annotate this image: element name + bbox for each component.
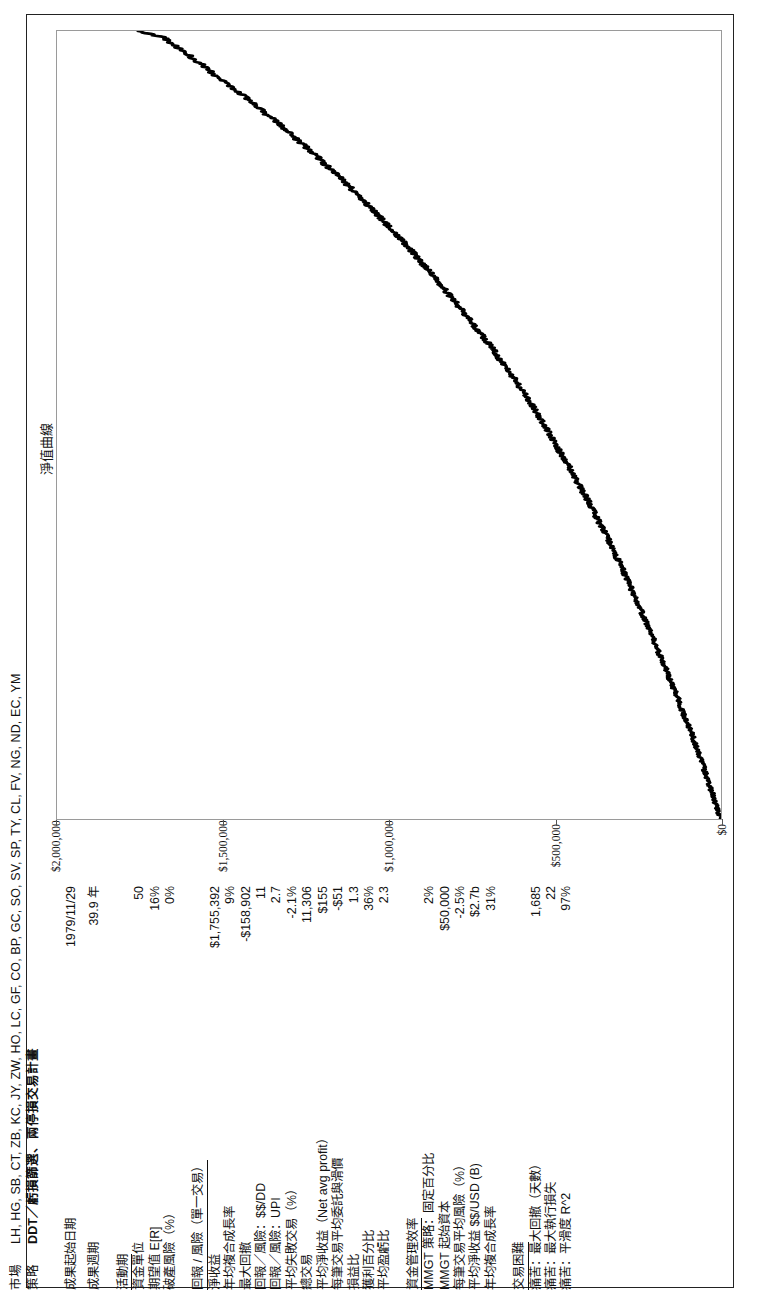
- stat-row-avg-net-profit: 平均淨收益（Net avg profit） $155: [316, 886, 331, 1290]
- y-axis-tick-mark: [556, 819, 557, 826]
- stat-row-avg-cost: 每筆交易平均委託與滑價 -$51: [331, 886, 346, 1290]
- stat-row-period: 成果週期 39.9 年: [87, 886, 102, 1290]
- stat-row-net-profit: 淨收益 $1,755,392: [208, 886, 223, 1290]
- y-axis-tick-mark: [722, 819, 723, 826]
- stat-row-avg-win-loss: 平均盈虧比 2.3: [377, 886, 392, 1290]
- header-row-market: 市場 LH, HG, SB, CT, ZB, KC, JY, ZW, HO, L…: [8, 140, 25, 1290]
- stat-label: 年均複合成長率: [484, 1206, 499, 1290]
- stat-row-total-trades: 總交易 11,306: [300, 886, 315, 1290]
- strategy-label: 策略: [25, 1244, 42, 1290]
- stat-value: 11: [254, 886, 269, 907]
- stat-value: 2%: [422, 886, 437, 912]
- stat-section-reward-risk: 回報 / 風險（單一交易）: [191, 886, 207, 1290]
- stat-value: $50,000: [438, 886, 453, 939]
- stat-row-avg-losing-trade: 平均失敗交易（%） -2.1%: [285, 886, 300, 1290]
- stat-row-expectancy: 期望值 E[R] 16%: [148, 886, 163, 1290]
- stat-row-mmgt-start-capital: MMGT 起始資本 $50,000: [438, 886, 453, 1290]
- stat-label: MMGT 策略：固定百分比: [422, 1153, 437, 1290]
- stat-label: 淨收益: [208, 1254, 223, 1290]
- stat-row-mmgt-cagr: 年均複合成長率 31%: [484, 886, 499, 1290]
- stat-section-label: 活動期: [116, 1254, 132, 1290]
- stat-row-reward-risk-dd: 回報／風險：$$/DD 11: [254, 886, 269, 1290]
- statistics-panel: 成果起始日期 1979/11/29 成果週期 39.9 年 活動期 資金單位 5…: [64, 886, 575, 1290]
- rotated-report-shell: 市場 LH, HG, SB, CT, ZB, KC, JY, ZW, HO, L…: [0, 0, 764, 1304]
- stat-row-pain-max-dd-days: 痛苦：最大回撤（天數） 1,685: [529, 886, 544, 1290]
- stat-value: $2.7b: [468, 886, 483, 925]
- stat-label: 獲利百分比: [362, 1230, 377, 1290]
- stat-value: 1,685: [529, 886, 544, 925]
- stat-section-difficulty: 交易困難: [512, 886, 528, 1290]
- stat-value: 1.3: [347, 886, 362, 911]
- stat-value: 50: [132, 886, 147, 908]
- stat-section-label: 交易困難: [512, 1242, 528, 1290]
- stat-row-pain-max-losses: 痛苦：最大執行損失 22: [544, 886, 559, 1290]
- stat-section-active-period: 活動期: [116, 886, 132, 1290]
- stat-label: 回報／風險：UPI: [269, 1197, 284, 1290]
- chart-title: 淨值曲線: [36, 26, 55, 872]
- plot-area: [56, 30, 722, 820]
- market-label: 市場: [8, 1244, 25, 1290]
- equity-curve-line: [57, 31, 721, 819]
- stat-value: 1979/11/29: [64, 886, 79, 955]
- stat-label: 痛苦：平滑度 R^2: [559, 1193, 574, 1290]
- stat-value: $1,755,392: [208, 886, 223, 956]
- stat-section-money-management: 資金管理效率: [406, 886, 422, 1290]
- stat-value: -$51: [331, 886, 346, 919]
- stat-value: 31%: [484, 886, 499, 919]
- stat-row-profit-loss-ratio: 損益比 1.3: [347, 886, 362, 1290]
- stat-value: 2.3: [377, 886, 392, 911]
- stat-value: 11,306: [300, 886, 315, 931]
- y-axis-tick-label: $1,000,000: [383, 824, 395, 872]
- equity-curve-chart: 淨值曲線 $0$500,000$1,000,000$1,500,000$2,00…: [36, 26, 726, 872]
- stat-row-win-rate: 獲利百分比 36%: [362, 886, 377, 1290]
- stat-label: MMGT 起始資本: [438, 1201, 453, 1290]
- stat-label: 成果起始日期: [64, 1218, 79, 1290]
- y-axis-tick-mark: [389, 819, 390, 826]
- stat-value: 9%: [223, 886, 238, 912]
- y-axis-tick-label: $2,000,000: [50, 824, 62, 872]
- y-axis-tick-mark: [56, 819, 57, 826]
- stat-row-capital-units: 資金單位 50: [132, 886, 147, 1290]
- stat-value: 2.7: [269, 886, 284, 911]
- y-axis-tick-label: $500,000: [550, 824, 562, 872]
- stat-label: 平均盈虧比: [377, 1230, 392, 1290]
- stat-label: 痛苦：最大執行損失: [544, 1182, 559, 1290]
- y-axis-tick-mark: [223, 819, 224, 826]
- stat-row-mmgt-avg-net: 平均淨收益 $$/USD (B) $2.7b: [468, 886, 483, 1290]
- stat-row-pain-smoothness: 痛苦：平滑度 R^2 97%: [559, 886, 574, 1290]
- stat-section-label: 資金管理效率: [406, 1218, 422, 1290]
- stat-label: 每筆交易平均風險（%）: [453, 1159, 468, 1290]
- stat-label: 平均淨收益（Net avg profit）: [316, 1132, 331, 1290]
- market-value: LH, HG, SB, CT, ZB, KC, JY, ZW, HO, LC, …: [8, 674, 25, 1244]
- strategy-value: DDT／虧損篩選、兩停損交易計畫: [25, 1048, 42, 1244]
- stat-row-start-date: 成果起始日期 1979/11/29: [64, 886, 79, 1290]
- stat-row-cagr: 年均複合成長率 9%: [223, 886, 238, 1290]
- stat-value: 97%: [559, 886, 574, 919]
- stat-label: 成果週期: [87, 1242, 102, 1290]
- stat-row-ruin-risk: 破產風險（%） 0%: [163, 886, 178, 1290]
- stat-value: 16%: [148, 886, 163, 919]
- report-sheet: 市場 LH, HG, SB, CT, ZB, KC, JY, ZW, HO, L…: [0, 0, 764, 1304]
- stat-label: 平均失敗交易（%）: [285, 1183, 300, 1290]
- stat-value: -2.5%: [453, 886, 468, 926]
- stat-label: 年均複合成長率: [223, 1206, 238, 1290]
- stat-row-mmgt-strategy: MMGT 策略：固定百分比 2%: [422, 886, 437, 1290]
- stat-label: 資金單位: [132, 1242, 147, 1290]
- stat-label: 回報／風險：$$/DD: [254, 1183, 269, 1290]
- stat-label: 痛苦：最大回撤（天數）: [529, 1158, 544, 1290]
- stat-value: -2.1%: [285, 886, 300, 926]
- stat-label: 損益比: [347, 1254, 362, 1290]
- stat-value: 0%: [163, 886, 178, 912]
- stat-value: 39.9 年: [87, 886, 102, 934]
- stat-row-max-drawdown: 最大回撤 -$158,902: [239, 886, 254, 1290]
- stat-label: 總交易: [300, 1254, 315, 1290]
- stat-value: -$158,902: [239, 886, 254, 950]
- stat-value: 22: [544, 886, 559, 908]
- stat-label: 平均淨收益 $$/USD (B): [468, 1163, 483, 1290]
- stat-row-mmgt-avg-risk: 每筆交易平均風險（%） -2.5%: [453, 886, 468, 1290]
- stat-row-reward-risk-upi: 回報／風險：UPI 2.7: [269, 886, 284, 1290]
- stat-label: 期望值 E[R]: [148, 1226, 163, 1290]
- stat-value: 36%: [362, 886, 377, 919]
- y-axis-tick-label: $1,500,000: [217, 824, 229, 872]
- stat-value: $155: [316, 886, 331, 922]
